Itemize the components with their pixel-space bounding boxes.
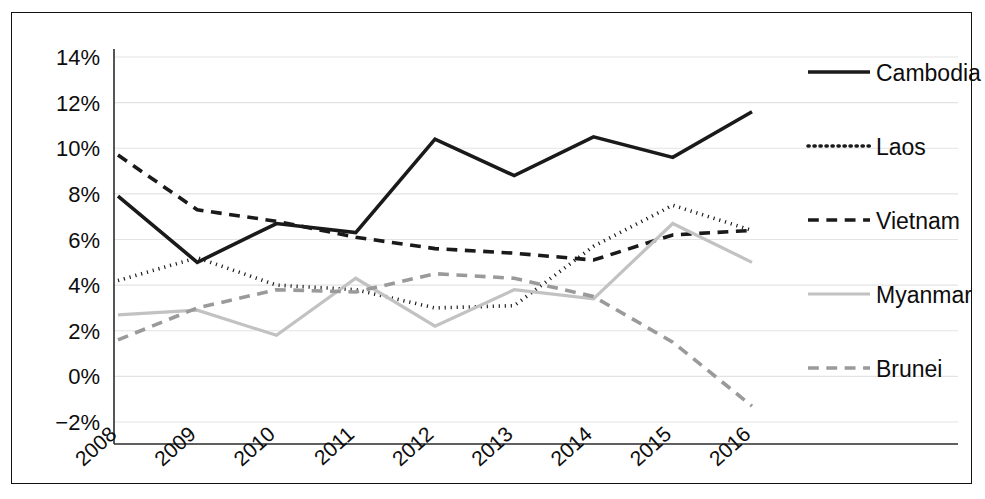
line-chart: 14%12%10%8%6%4%2%0%−2% 20082009201020112… <box>0 0 985 499</box>
y-tick-label: 2% <box>68 319 100 344</box>
x-tick-label: 2013 <box>467 422 517 470</box>
legend-label-cambodia: Cambodia <box>876 60 981 86</box>
y-tick-label: 10% <box>56 136 100 161</box>
y-tick-label: 12% <box>56 91 100 116</box>
y-tick-label: 8% <box>68 182 100 207</box>
x-tick-label: 2012 <box>388 422 438 470</box>
legend-label-myanmar: Myanmar <box>876 282 972 308</box>
y-tick-label: −2% <box>55 410 100 435</box>
y-tick-label: 4% <box>68 273 100 298</box>
x-tick-label: 2014 <box>546 422 596 471</box>
data-series-group <box>118 112 752 406</box>
x-axis-tick-labels: 200820092010201120122013201420152016 <box>71 422 755 471</box>
series-line-laos <box>118 205 752 308</box>
x-tick-label: 2010 <box>229 422 279 470</box>
x-tick-label: 2011 <box>309 422 358 469</box>
series-line-brunei <box>118 274 752 406</box>
y-tick-label: 0% <box>68 364 100 389</box>
legend-label-brunei: Brunei <box>876 356 942 382</box>
chart-page: 14%12%10%8%6%4%2%0%−2% 20082009201020112… <box>0 0 985 499</box>
legend-label-laos: Laos <box>876 134 926 160</box>
chart-plot-area: 14%12%10%8%6%4%2%0%−2% 20082009201020112… <box>0 0 985 499</box>
legend-label-vietnam: Vietnam <box>876 208 960 234</box>
y-tick-label: 6% <box>68 228 100 253</box>
series-line-vietnam <box>118 155 752 260</box>
series-line-myanmar <box>118 224 752 336</box>
chart-legend: CambodiaLaosVietnamMyanmarBrunei <box>808 60 981 382</box>
x-tick-label: 2016 <box>705 422 755 470</box>
x-tick-label: 2009 <box>150 422 200 470</box>
y-axis-tick-labels: 14%12%10%8%6%4%2%0%−2% <box>55 45 100 435</box>
y-tick-label: 14% <box>56 45 100 70</box>
x-tick-label: 2015 <box>625 422 675 470</box>
axis-lines <box>114 49 958 444</box>
